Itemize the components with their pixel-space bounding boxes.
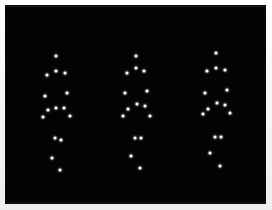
dot-left-hip xyxy=(207,108,210,111)
dot-right-shoulder xyxy=(224,69,227,72)
dot-right-knee xyxy=(220,136,223,139)
dot-right-elbow xyxy=(226,89,229,92)
dot-sternum xyxy=(215,67,218,70)
dot-head xyxy=(215,52,218,55)
stimulus-field xyxy=(6,6,265,203)
dot-right-wrist xyxy=(229,112,232,115)
dot-left-wrist xyxy=(202,113,205,116)
dot-left-shoulder xyxy=(206,70,209,73)
point-light-display-stage xyxy=(0,0,272,210)
walker-right xyxy=(6,6,265,203)
dot-left-elbow xyxy=(204,92,207,95)
dot-right-hip xyxy=(224,104,227,107)
dot-right-ankle xyxy=(219,165,222,168)
dot-left-knee xyxy=(214,136,217,139)
dot-left-ankle xyxy=(209,152,212,155)
dot-pelvis xyxy=(216,102,219,105)
